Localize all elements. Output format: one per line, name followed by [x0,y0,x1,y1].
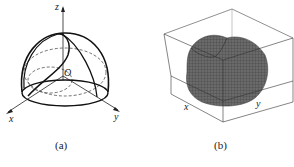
caption-a: (a) [55,139,67,151]
y-axis-label: y [256,98,260,109]
panel-b-surface-plot: x y (b) [147,0,294,167]
y-axis-label: y [114,111,118,122]
origin-label: O [64,67,71,78]
x-axis-label: x [184,101,188,112]
hemisphere-drawing [0,0,147,167]
z-axis-label: z [55,1,59,12]
x-axis-label: x [9,113,13,124]
caption-b: (b) [214,139,227,151]
panel-a-hemisphere-diagram: z O x y (a) [0,0,147,167]
